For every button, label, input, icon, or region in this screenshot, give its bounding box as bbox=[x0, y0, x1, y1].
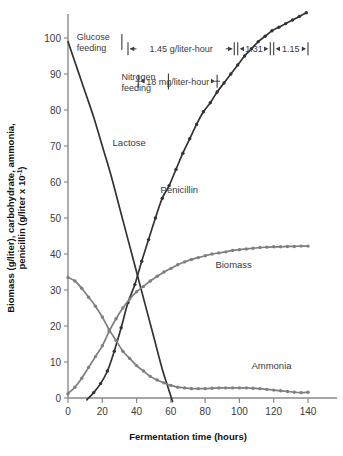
data-point bbox=[140, 260, 143, 263]
data-point bbox=[154, 216, 157, 219]
data-point bbox=[195, 123, 198, 126]
data-point bbox=[119, 326, 122, 329]
bracket-arrow-left bbox=[276, 46, 280, 51]
data-point bbox=[155, 275, 158, 278]
data-point bbox=[183, 386, 186, 389]
data-point bbox=[284, 22, 287, 25]
data-point bbox=[231, 386, 234, 389]
annotation-rate-1: 1.45 g/liter-hour bbox=[150, 44, 213, 54]
annotation-rate-nitrogen: 18 mg/liter-hour bbox=[146, 77, 209, 87]
data-point bbox=[210, 252, 213, 255]
data-point bbox=[257, 40, 260, 43]
y-tick-label: 20 bbox=[50, 321, 62, 332]
data-point bbox=[162, 381, 165, 384]
fermentation-chart-figure: 0102030405060708090100020406080100120140… bbox=[0, 0, 343, 456]
data-point bbox=[258, 246, 261, 249]
data-point bbox=[222, 81, 225, 84]
data-point bbox=[169, 267, 172, 270]
data-point bbox=[94, 355, 97, 358]
data-point bbox=[114, 339, 117, 342]
data-point bbox=[229, 72, 232, 75]
data-point bbox=[299, 391, 302, 394]
data-point bbox=[224, 250, 227, 253]
data-point bbox=[209, 101, 212, 104]
data-point bbox=[135, 364, 138, 367]
data-point bbox=[245, 386, 248, 389]
data-point bbox=[128, 297, 131, 300]
data-point bbox=[190, 387, 193, 390]
data-point bbox=[291, 18, 294, 21]
chart-series bbox=[66, 11, 309, 402]
data-point bbox=[142, 285, 145, 288]
data-point bbox=[306, 244, 309, 247]
series-penicillin bbox=[87, 11, 308, 400]
data-point bbox=[202, 110, 205, 113]
data-point bbox=[245, 247, 248, 250]
data-point bbox=[66, 276, 69, 279]
data-point bbox=[99, 382, 102, 385]
fermentation-time-course-chart: 0102030405060708090100020406080100120140… bbox=[0, 0, 343, 456]
data-point bbox=[217, 251, 220, 254]
data-point bbox=[176, 263, 179, 266]
data-point bbox=[142, 369, 145, 372]
y-tick-label: 40 bbox=[50, 249, 62, 260]
bracket-arrow-left bbox=[240, 46, 244, 51]
series-biomass bbox=[66, 244, 309, 395]
data-point bbox=[258, 387, 261, 390]
data-point bbox=[101, 344, 104, 347]
data-point bbox=[181, 152, 184, 155]
y-tick-label: 0 bbox=[55, 393, 61, 404]
x-axis-title: Fermentation time (hours) bbox=[129, 431, 247, 442]
data-point bbox=[174, 168, 177, 171]
data-point bbox=[210, 387, 213, 390]
data-point bbox=[251, 387, 254, 390]
y-tick-label: 60 bbox=[50, 177, 62, 188]
data-point bbox=[265, 388, 268, 391]
data-point bbox=[279, 389, 282, 392]
x-tick-label: 100 bbox=[231, 406, 248, 417]
annotation-glucose-feeding: Glucosefeeding bbox=[77, 32, 110, 53]
data-point bbox=[87, 296, 90, 299]
y-tick-label: 50 bbox=[50, 213, 62, 224]
data-point bbox=[135, 290, 138, 293]
data-point bbox=[176, 386, 179, 389]
data-point bbox=[224, 386, 227, 389]
data-point bbox=[169, 384, 172, 387]
data-point bbox=[183, 260, 186, 263]
x-tick-label: 140 bbox=[300, 406, 317, 417]
data-point bbox=[238, 386, 241, 389]
data-point bbox=[217, 386, 220, 389]
data-point bbox=[270, 29, 273, 32]
bracket-arrow-left bbox=[130, 46, 134, 51]
data-point bbox=[203, 387, 206, 390]
data-point bbox=[149, 375, 152, 378]
data-point bbox=[114, 317, 117, 320]
data-point bbox=[306, 391, 309, 394]
chart-annotations: GlucosefeedingNitrogenfeeding1.45 g/lite… bbox=[77, 32, 308, 93]
data-point bbox=[73, 386, 76, 389]
data-point bbox=[251, 247, 254, 250]
y-tick-label: 30 bbox=[50, 285, 62, 296]
data-point bbox=[272, 388, 275, 391]
data-point bbox=[203, 254, 206, 257]
data-point bbox=[162, 270, 165, 273]
data-point bbox=[236, 63, 239, 66]
data-point bbox=[197, 256, 200, 259]
data-point bbox=[149, 279, 152, 282]
y-axis-title: Biomass (g/liter), carbohydrate, ammonia… bbox=[5, 123, 27, 313]
data-point bbox=[277, 26, 280, 29]
data-point bbox=[293, 245, 296, 248]
data-point bbox=[231, 249, 234, 252]
data-point bbox=[80, 377, 83, 380]
series-ammonia bbox=[66, 276, 309, 395]
data-point bbox=[121, 350, 124, 353]
series-label-lactose: Lactose bbox=[113, 137, 146, 148]
data-point bbox=[286, 390, 289, 393]
data-point bbox=[147, 238, 150, 241]
data-point bbox=[92, 391, 95, 394]
y-tick-label: 100 bbox=[44, 33, 61, 44]
data-point bbox=[106, 369, 109, 372]
data-point bbox=[94, 305, 97, 308]
bracket-arrow-right bbox=[211, 79, 215, 84]
data-point bbox=[265, 245, 268, 248]
